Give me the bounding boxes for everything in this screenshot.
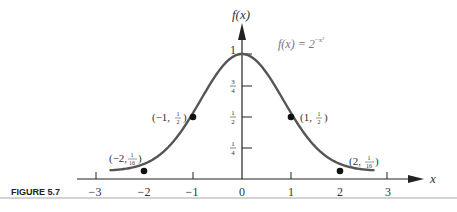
x-tick-0: 0	[239, 185, 245, 199]
svg-text:2: 2	[177, 119, 180, 125]
svg-text:1: 1	[318, 111, 321, 117]
svg-text:3: 3	[231, 78, 235, 86]
svg-text:16: 16	[366, 163, 372, 169]
svg-text:1: 1	[231, 109, 235, 117]
svg-text:(1,: (1,	[300, 111, 312, 124]
function-label: f(x) = 2−x²	[278, 36, 324, 51]
svg-text:): )	[138, 152, 142, 165]
point-neg2	[141, 168, 148, 175]
y-tick-three-quarters: 3 4	[230, 78, 236, 95]
function-label-base: f(x) = 2	[278, 37, 315, 51]
svg-text:(2,: (2,	[349, 155, 361, 168]
x-axis: x	[77, 171, 436, 186]
svg-text:4: 4	[231, 87, 235, 95]
svg-text:2: 2	[231, 118, 235, 126]
x-tick-neg1: −1	[186, 185, 199, 199]
x-axis-label: x	[429, 171, 436, 186]
svg-text:1: 1	[368, 155, 371, 161]
x-tick-2: 2	[337, 185, 343, 199]
y-ticks	[242, 54, 252, 148]
svg-text:1: 1	[231, 140, 235, 148]
x-tick-labels: −3 −2 −1 0 1 2 3	[89, 185, 391, 199]
y-tick-labels: 1 3 4 1 2 1 4	[230, 43, 236, 157]
svg-text:1: 1	[177, 111, 180, 117]
x-tick-neg3: −3	[89, 185, 102, 199]
x-tick-3: 3	[385, 185, 391, 199]
svg-text:): )	[324, 111, 328, 124]
point-label-2: (2, 1 16 )	[349, 155, 379, 169]
figure-5-7: x f(x) −3 −2 −1 0 1 2 3 1 3 4	[0, 0, 457, 212]
point-1	[288, 114, 295, 121]
y-tick-half: 1 2	[230, 109, 236, 126]
x-tick-1: 1	[288, 185, 294, 199]
svg-text:1: 1	[131, 152, 134, 158]
function-label-exponent: −x²	[315, 36, 325, 44]
svg-text:): )	[183, 111, 187, 124]
point-label-neg2: (−2, 1 16 )	[109, 152, 142, 166]
svg-text:4: 4	[231, 149, 235, 157]
figure-caption: FIGURE 5.7	[11, 187, 60, 197]
svg-text:16: 16	[129, 160, 135, 166]
point-label-neg1: (−1, 1 2 )	[152, 111, 187, 125]
point-neg1	[190, 114, 197, 121]
svg-text:): )	[375, 155, 379, 168]
x-axis-arrow-icon	[408, 175, 424, 183]
point-2	[337, 168, 344, 175]
y-axis-label: f(x)	[232, 7, 250, 22]
svg-text:(−1,: (−1,	[152, 111, 170, 124]
x-tick-neg2: −2	[138, 185, 151, 199]
svg-text:2: 2	[318, 119, 321, 125]
point-label-1: (1, 1 2 )	[300, 111, 328, 125]
y-axis-arrow-icon	[238, 23, 246, 40]
y-tick-quarter: 1 4	[230, 140, 236, 157]
svg-text:(−2,: (−2,	[109, 152, 127, 165]
